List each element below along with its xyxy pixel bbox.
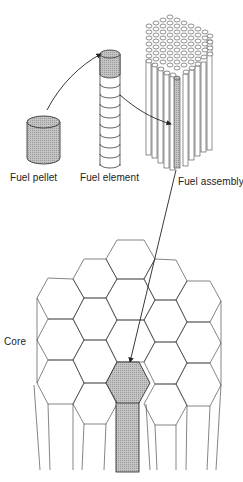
arrow-pellet-to-element: [47, 54, 101, 110]
selected-assembly-in-core: [106, 362, 150, 472]
fuel-hierarchy-diagram: [0, 0, 243, 482]
label-fuel-pellet: Fuel pellet: [10, 172, 57, 183]
fuel-pellet: [27, 116, 60, 164]
label-fuel-element: Fuel element: [80, 172, 139, 183]
fuel-element: [100, 50, 120, 168]
arrow-assembly-to-core: [130, 170, 176, 362]
fuel-assembly: [146, 15, 213, 170]
label-core: Core: [4, 336, 26, 347]
label-fuel-assembly: Fuel assembly: [178, 176, 243, 187]
arrow-element-to-assembly: [120, 95, 171, 124]
